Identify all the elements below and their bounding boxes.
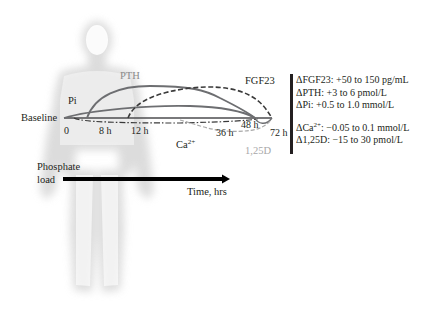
ca-label: Ca2+: [176, 140, 195, 151]
time-arrow-head: [222, 175, 230, 184]
phosphate-load-label-line1: Phosphate: [37, 162, 80, 173]
legend-pi: ΔPi: +0.5 to 1.0 mmol/L: [296, 99, 409, 112]
legend-ca: ΔCa2+: −0.05 to 0.1 mmol/L: [296, 122, 409, 135]
time-axis-label: Time, hrs: [187, 187, 227, 198]
legend-d125: Δ1,25D: −15 to 30 pmol/L: [296, 134, 409, 147]
tick-72h: 72 h: [270, 128, 288, 138]
d125-label: 1,25D: [245, 146, 271, 157]
phosphate-load-label-line2: load: [37, 175, 55, 186]
fgf23-label: FGF23: [245, 76, 275, 87]
legend-divider: [290, 74, 293, 154]
tick-12h: 12 h: [131, 126, 149, 136]
change-ranges-legend: ΔFGF23: +50 to 150 pg/mL ΔPTH: +3 to 6 p…: [296, 74, 409, 147]
legend-fgf23: ΔFGF23: +50 to 150 pg/mL: [296, 74, 409, 87]
fgf23-curve: [128, 87, 272, 118]
legend-pth: ΔPTH: +3 to 6 pmol/L: [296, 87, 409, 100]
baseline-label: Baseline: [21, 113, 57, 124]
tick-8h: 8 h: [99, 126, 112, 136]
pi-label: Pi: [68, 96, 77, 107]
response-curves: [0, 0, 438, 311]
phosphate-load-response-diagram: Baseline Pi PTH FGF23 Ca2+ 1,25D 0 8 h 1…: [0, 0, 438, 311]
tick-48h: 48 h: [241, 120, 259, 130]
pth-label: PTH: [120, 71, 140, 82]
tick-0h: 0: [64, 126, 69, 136]
tick-36h: 36 h: [216, 128, 234, 138]
